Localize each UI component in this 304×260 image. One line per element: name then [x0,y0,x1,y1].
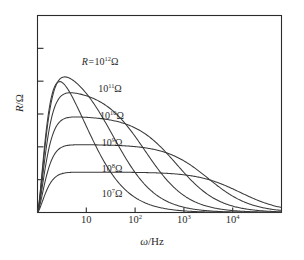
x-axis-tick-label: 104 [226,215,240,226]
x-axis-tick-label: 102 [128,215,142,226]
plot-frame [38,16,282,213]
x-axis-unit: /Hz [148,235,164,247]
data-curve [38,82,282,213]
x-axis-tick-label: 10 [81,215,92,226]
data-curves [38,77,282,213]
chart-figure: 10102103104 R=1012Ω1011Ω1010Ω109Ω108Ω107… [0,0,304,260]
data-curve [38,172,282,212]
curve-label: 108Ω [102,164,123,174]
curve-label: 109Ω [102,138,123,148]
y-axis-variable: R [13,105,25,112]
plot-canvas [0,0,304,260]
x-axis-variable: ω [140,235,148,247]
x-axis-title: ω/Hz [140,236,164,247]
y-axis-ticks [38,48,44,179]
data-curve [38,145,282,213]
curve-label: 1010Ω [100,111,124,121]
curve-label: 107Ω [102,189,123,199]
x-axis-tick-label: 103 [177,215,191,226]
y-axis-unit: /Ω [13,94,25,105]
curve-label: 1011Ω [98,84,122,94]
curve-label: R=1012Ω [82,57,119,67]
y-axis-title: R/Ω [14,94,25,112]
data-curve [38,117,282,213]
